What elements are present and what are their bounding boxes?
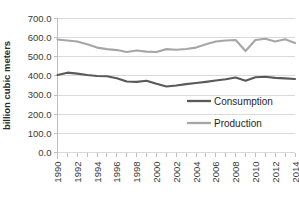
y-tick-label: 300.0	[28, 89, 52, 100]
y-axis-title: billion cubic meters	[1, 41, 12, 130]
x-tick-label: 2002	[171, 162, 182, 183]
chart-legend: ConsumptionProduction	[187, 96, 273, 129]
x-tick-label: 2014	[290, 162, 299, 183]
x-tick-label: 2010	[250, 162, 261, 183]
x-tick-label: 2000	[151, 162, 162, 183]
x-tick-label: 2004	[191, 162, 202, 183]
x-tick-label: 1990	[52, 162, 63, 183]
x-tick-label: 2006	[210, 162, 221, 183]
x-tick-label: 1992	[72, 162, 83, 183]
x-tick-label: 1994	[92, 162, 103, 183]
x-tick-label: 2012	[270, 162, 281, 183]
x-tick-label: 2008	[230, 162, 241, 183]
x-tick-label: 1998	[131, 162, 142, 183]
chart-container: 0.0100.0200.0300.0400.0500.0600.0700.0 1…	[0, 0, 299, 217]
series-line-consumption	[58, 73, 296, 87]
line-chart: 0.0100.0200.0300.0400.0500.0600.0700.0 1…	[0, 0, 299, 217]
legend-label-production: Production	[214, 118, 262, 129]
x-tick-label: 1996	[111, 162, 122, 183]
y-axis-title-text: billion cubic meters	[1, 41, 12, 130]
y-tick-label: 200.0	[28, 109, 52, 120]
series-line-production	[58, 39, 296, 52]
y-tick-label: 500.0	[28, 51, 52, 62]
x-axis-ticks: 1990199219941996199820002002200420062008…	[52, 153, 299, 183]
y-axis-ticks: 0.0100.0200.0300.0400.0500.0600.0700.0	[28, 13, 58, 158]
legend-label-consumption: Consumption	[214, 96, 273, 107]
y-tick-label: 700.0	[28, 13, 52, 24]
y-tick-label: 100.0	[28, 128, 52, 139]
y-tick-label: 0.0	[38, 147, 51, 158]
y-tick-label: 600.0	[28, 32, 52, 43]
y-tick-label: 400.0	[28, 70, 52, 81]
series-lines	[58, 39, 296, 87]
